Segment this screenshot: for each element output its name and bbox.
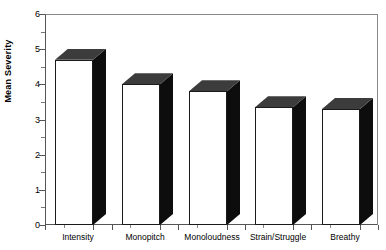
x-axis-category-label: Monoloudness: [184, 232, 239, 242]
x-axis-minor-tick: [130, 225, 131, 228]
y-axis-title: Mean Severity: [3, 11, 13, 131]
x-axis-category-boundary-tick: [245, 225, 246, 230]
x-axis-category-boundary-tick: [45, 225, 46, 230]
y-axis-minor-tick: [41, 67, 45, 68]
bar-front-face: [255, 107, 293, 225]
y-axis-minor-tick: [41, 207, 45, 208]
bar: [255, 96, 306, 225]
x-axis-category-label: Monopitch: [125, 232, 164, 242]
bar-front-face: [322, 109, 360, 225]
x-axis-category-label: Strain/Struggle: [250, 232, 306, 242]
y-axis-major-tick: [39, 155, 45, 156]
x-axis-tick: [360, 225, 361, 230]
x-axis-end-tick: [378, 225, 379, 230]
x-axis-category-label: Intensity: [62, 232, 94, 242]
chart-root: Mean Severity 0123456 IntensityMonopitch…: [0, 0, 386, 250]
y-axis-minor-tick: [41, 172, 45, 173]
y-axis-major-tick: [39, 49, 45, 50]
x-axis-minor-tick: [263, 225, 264, 228]
y-axis-tick-label: 5: [24, 44, 40, 54]
x-axis-category-boundary-tick: [178, 225, 179, 230]
y-axis-major-tick: [39, 84, 45, 85]
x-axis-minor-tick: [330, 225, 331, 228]
y-axis-tick-label: 3: [24, 115, 40, 125]
y-axis-minor-tick: [41, 137, 45, 138]
y-axis-tick-label: 1: [24, 185, 40, 195]
y-axis-major-tick: [39, 14, 45, 15]
x-axis-tick: [160, 225, 161, 230]
bar-front-face: [122, 84, 160, 225]
bar: [122, 73, 173, 225]
bar-front-face: [55, 60, 93, 225]
x-axis-tick: [93, 225, 94, 230]
y-axis-minor-tick: [41, 102, 45, 103]
y-axis-major-tick: [39, 120, 45, 121]
y-axis-minor-tick: [41, 32, 45, 33]
y-axis-tick-label: 4: [24, 79, 40, 89]
y-axis-major-tick: [39, 190, 45, 191]
x-axis-tick: [293, 225, 294, 230]
bar: [322, 98, 373, 225]
bar-front-face: [189, 91, 227, 225]
x-axis-category-boundary-tick: [112, 225, 113, 230]
y-axis-tick-labels: 0123456: [22, 14, 40, 225]
bar: [189, 80, 240, 225]
y-axis-tick-label: 0: [24, 220, 40, 230]
x-axis-minor-tick: [64, 225, 65, 228]
x-axis-tick: [227, 225, 228, 230]
bar: [55, 49, 106, 225]
x-axis-category-label: Breathy: [330, 232, 359, 242]
x-axis-category-boundary-tick: [311, 225, 312, 230]
y-axis-tick-label: 2: [24, 150, 40, 160]
x-axis-minor-tick: [197, 225, 198, 228]
y-axis-tick-label: 6: [24, 9, 40, 19]
